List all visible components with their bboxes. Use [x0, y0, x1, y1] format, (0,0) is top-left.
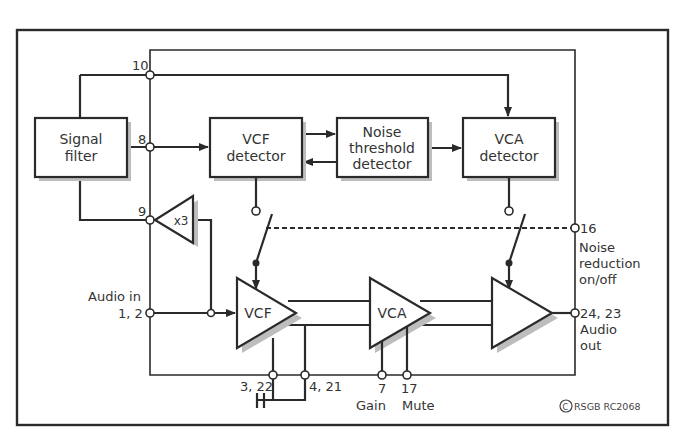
copyright-notice: C RSGB RC2068	[560, 400, 640, 412]
pin-7	[378, 371, 386, 379]
svg-text:filter: filter	[65, 148, 98, 164]
label-pin-16: 16	[580, 221, 597, 236]
pin-8	[146, 143, 154, 151]
label-pin-3-22: 3, 22	[240, 379, 273, 394]
label-pin-17: 17	[401, 381, 418, 396]
label-audio-in-pins: 1, 2	[118, 306, 143, 321]
svg-text:VCF: VCF	[242, 131, 269, 147]
label-pin-4-21: 4, 21	[309, 379, 342, 394]
label-pin-10: 10	[132, 58, 149, 73]
label-audio-out-pins: 24, 23	[580, 306, 621, 321]
svg-text:reduction: reduction	[579, 256, 641, 271]
label-noise-reduction: Noise	[579, 240, 615, 255]
switch-contact-vca	[505, 207, 513, 215]
pin-16	[571, 224, 579, 232]
label-audio-in: Audio in	[88, 289, 141, 304]
svg-text:on/off: on/off	[579, 272, 618, 287]
pin-audio-in	[146, 309, 154, 317]
svg-text:detector: detector	[226, 148, 285, 164]
vcf-detector-block: VCF detector	[210, 118, 302, 177]
label-mute: Mute	[402, 398, 435, 413]
svg-text:C: C	[563, 403, 569, 412]
svg-text:x3: x3	[174, 214, 189, 228]
svg-text:threshold: threshold	[349, 140, 415, 156]
svg-text:VCF: VCF	[244, 305, 271, 321]
label-gain: Gain	[356, 398, 386, 413]
wire-pin10-to-vca-detector	[80, 75, 508, 116]
noise-threshold-detector-block: Noise threshold detector	[337, 118, 428, 177]
svg-text:VCA: VCA	[378, 305, 407, 321]
junction-node	[208, 310, 215, 317]
svg-text:Signal: Signal	[59, 131, 102, 147]
svg-text:RSGB RC2068: RSGB RC2068	[574, 401, 640, 412]
label-pin-7: 7	[378, 381, 386, 396]
pin-3-22	[269, 371, 277, 379]
switch-vca	[509, 214, 525, 263]
pin-4-21	[301, 371, 309, 379]
pin-17	[403, 371, 411, 379]
label-audio-out: Audio	[580, 322, 617, 337]
label-pin-9: 9	[138, 204, 146, 219]
switch-contact-vcf	[252, 207, 260, 215]
signal-filter-block: Signal filter	[35, 118, 127, 177]
svg-text:detector: detector	[352, 156, 411, 172]
svg-text:VCA: VCA	[495, 131, 524, 147]
svg-text:Noise: Noise	[363, 124, 402, 140]
switch-vcf	[256, 214, 272, 263]
label-pin-8: 8	[138, 132, 146, 147]
x3-buffer-amplifier: x3	[155, 196, 193, 243]
pin-9	[146, 216, 154, 224]
pin-audio-out	[571, 309, 579, 317]
svg-text:detector: detector	[479, 148, 538, 164]
vca-detector-block: VCA detector	[463, 118, 555, 177]
noise-reduction-block-diagram: Signal filter VCF detector Noise thresho…	[0, 0, 675, 445]
svg-text:out: out	[580, 338, 601, 353]
